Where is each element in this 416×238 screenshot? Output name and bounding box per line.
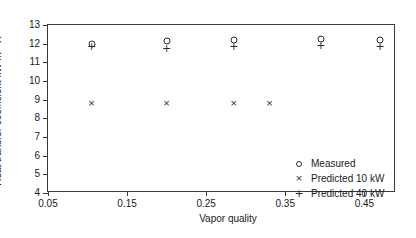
x-tick-mark bbox=[127, 191, 128, 196]
data-point-cross: × bbox=[88, 99, 96, 108]
data-point-plus: + bbox=[162, 43, 171, 54]
y-tick-mark bbox=[43, 156, 48, 157]
data-point-plus: + bbox=[229, 41, 238, 52]
data-point-circle bbox=[88, 40, 95, 47]
data-point-cross: × bbox=[230, 99, 238, 108]
legend-item: Measured bbox=[291, 156, 384, 171]
legend-circle-icon bbox=[296, 161, 302, 167]
x-tick-mark bbox=[48, 191, 49, 196]
x-tick-label: 0.25 bbox=[196, 199, 215, 209]
y-tick-label: 11 bbox=[30, 57, 40, 67]
legend-label: Predicted 10 kW bbox=[307, 173, 384, 184]
x-tick-mark bbox=[206, 191, 207, 196]
x-axis-title: Vapor quality bbox=[0, 213, 416, 224]
y-tick-label: 4 bbox=[34, 188, 40, 198]
y-tick-label: 10 bbox=[29, 76, 40, 86]
legend-item: +Predicted 40 kW bbox=[291, 186, 384, 201]
y-tick-mark bbox=[43, 25, 48, 26]
legend-label: Measured bbox=[307, 158, 355, 169]
x-tick-mark bbox=[285, 191, 286, 196]
y-tick-mark bbox=[43, 137, 48, 138]
legend-plus-icon: + bbox=[294, 188, 303, 199]
x-tick-label: 0.15 bbox=[117, 199, 136, 209]
data-point-circle bbox=[163, 37, 170, 44]
data-point-cross: × bbox=[163, 99, 171, 108]
y-tick-label: 7 bbox=[34, 132, 40, 142]
data-point-plus: + bbox=[87, 40, 96, 51]
y-tick-mark bbox=[43, 81, 48, 82]
y-tick-label: 9 bbox=[34, 95, 40, 105]
data-point-plus: + bbox=[316, 39, 325, 50]
legend-item: ×Predicted 10 kW bbox=[291, 171, 384, 186]
legend-symbol-cross: × bbox=[291, 174, 307, 183]
y-tick-label: 8 bbox=[34, 113, 40, 123]
y-axis-title: Heat transfer coefficient kW m-2 K-1 bbox=[0, 30, 3, 186]
legend-symbol-plus: + bbox=[291, 188, 307, 199]
chart-legend: Measured×Predicted 10 kW+Predicted 40 kW bbox=[291, 156, 384, 201]
y-tick-mark bbox=[43, 44, 48, 45]
y-axis-title-main: Heat transfer coefficient kW m bbox=[0, 52, 3, 186]
y-tick-label: 6 bbox=[34, 151, 40, 161]
data-point-circle bbox=[230, 36, 237, 43]
data-point-cross: × bbox=[266, 99, 274, 108]
data-point-circle bbox=[377, 36, 384, 43]
y-tick-label: 12 bbox=[29, 39, 40, 49]
data-point-circle bbox=[317, 36, 324, 43]
y-tick-label: 13 bbox=[29, 20, 40, 30]
y-tick-mark bbox=[43, 100, 48, 101]
legend-label: Predicted 40 kW bbox=[307, 188, 384, 199]
y-tick-mark bbox=[43, 62, 48, 63]
y-axis-title-mid: K bbox=[0, 36, 3, 45]
plot-area: 45678910111213 0.050.150.250.350.45 ××××… bbox=[47, 24, 395, 192]
legend-cross-icon: × bbox=[295, 174, 303, 183]
data-point-plus: + bbox=[376, 41, 385, 52]
y-tick-mark bbox=[43, 174, 48, 175]
chart-figure: Heat transfer coefficient kW m-2 K-1 456… bbox=[0, 0, 416, 238]
y-tick-mark bbox=[43, 118, 48, 119]
y-tick-label: 5 bbox=[34, 169, 40, 179]
x-tick-label: 0.05 bbox=[38, 199, 57, 209]
legend-symbol-circle bbox=[291, 161, 307, 167]
